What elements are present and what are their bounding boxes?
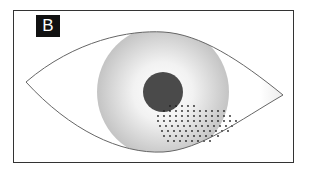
eye-interior <box>97 26 290 158</box>
panel-label: B <box>36 15 60 37</box>
pupil <box>143 72 183 112</box>
